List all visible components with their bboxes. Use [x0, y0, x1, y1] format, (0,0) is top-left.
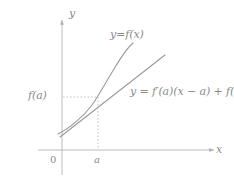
y-axis-label: y [69, 8, 75, 19]
tangent-line-figure: y x 0 a f(a) y=f(x) y = f′(a)(x − a) + f… [0, 0, 234, 181]
tangent-equation-label: y = f′(a)(x − a) + f(a) [130, 86, 234, 97]
x-tick-label-a: a [94, 155, 100, 165]
y-tick-label-fa: f(a) [28, 90, 47, 101]
x-axis-label: x [216, 144, 222, 155]
origin-label: 0 [50, 155, 56, 165]
curve-equation-label: y=f(x) [110, 29, 144, 40]
